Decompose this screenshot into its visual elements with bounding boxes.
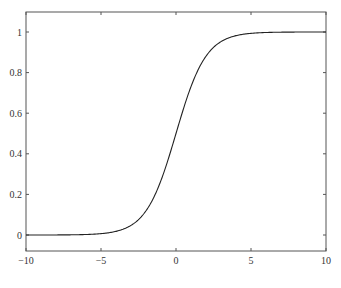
y-tick-label: 1: [17, 27, 22, 38]
y-tick-label: 0.4: [10, 148, 23, 159]
sigmoid-curve: [26, 32, 326, 235]
y-tick-label: 0: [17, 230, 22, 241]
x-tick-label: 0: [174, 255, 179, 266]
x-tick-label: 5: [249, 255, 254, 266]
y-tick-label: 0.8: [10, 67, 23, 78]
y-tick-label: 0.2: [10, 189, 23, 200]
x-tick-label: −5: [96, 255, 107, 266]
x-tick-label: −10: [18, 255, 34, 266]
plot-area: −10−5051000.20.40.60.81: [10, 12, 332, 266]
plot-frame: [26, 12, 326, 251]
sigmoid-chart: −10−5051000.20.40.60.81: [0, 0, 341, 288]
x-tick-label: 10: [321, 255, 331, 266]
y-tick-label: 0.6: [10, 108, 23, 119]
